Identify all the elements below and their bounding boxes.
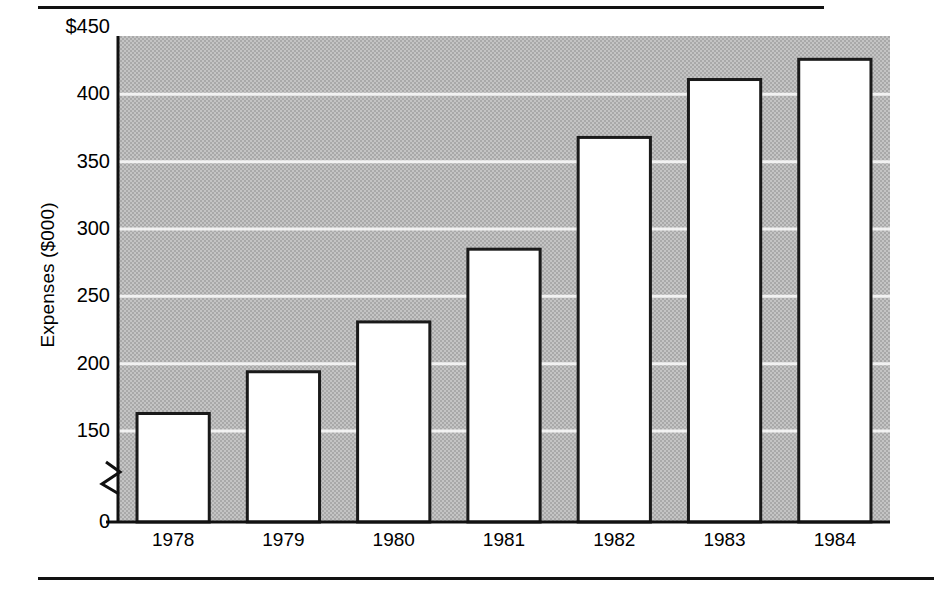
x-tick-label-1982: 1982 [559, 530, 669, 550]
y-tick-label-450: $450 [30, 16, 110, 36]
y-tick-label-0: 0 [30, 511, 110, 531]
bar-chart [0, 0, 934, 599]
figure-container: 0150200250300350400$450 1978197919801981… [0, 0, 934, 599]
x-tick-label-1984: 1984 [780, 530, 890, 550]
x-tick-label-1978: 1978 [118, 530, 228, 550]
x-tick-label-1983: 1983 [670, 530, 780, 550]
x-tick-label-1980: 1980 [339, 530, 449, 550]
x-tick-label-1981: 1981 [449, 530, 559, 550]
y-tick-label-150: 150 [30, 420, 110, 440]
y-tick-label-400: 400 [30, 83, 110, 103]
y-axis-title: Expenses ($000) [37, 165, 59, 385]
x-tick-label-1979: 1979 [228, 530, 338, 550]
